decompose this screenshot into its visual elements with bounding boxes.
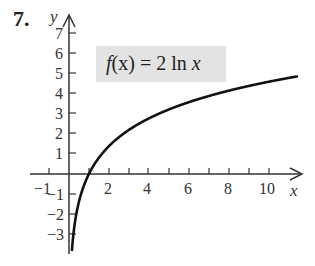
x-ticks: [49, 168, 269, 174]
y-axis: [63, 15, 75, 254]
x-tick-label: 4: [143, 180, 151, 197]
y-axis-label: y: [48, 7, 58, 26]
y-tick-label: 2: [55, 125, 63, 142]
y-tick-label: −1: [47, 186, 64, 203]
x-tick-label: 8: [224, 180, 232, 197]
x-tick-label: 2: [104, 180, 112, 197]
chart-plot: −1 2 4 6 8 10 x y 7 6 5 4 3 2 1 −1 −2 −3: [0, 0, 315, 266]
y-tick-label: 1: [55, 145, 63, 162]
y-ticks: [69, 33, 76, 234]
y-tick-label: 7: [55, 25, 63, 42]
y-tick-label: 5: [55, 65, 63, 82]
y-tick-label: −3: [47, 226, 64, 243]
y-tick-label: 6: [55, 45, 63, 62]
y-tick-label: 4: [55, 85, 63, 102]
y-tick-label: 3: [55, 105, 63, 122]
function-curve: [72, 76, 297, 249]
x-axis-label: x: [289, 181, 298, 200]
x-tick-label: 6: [184, 180, 192, 197]
x-tick-label: 10: [259, 180, 275, 197]
function-label: f(x) = 2 ln x: [106, 52, 201, 75]
y-tick-label: −2: [47, 206, 64, 223]
x-axis: [30, 168, 302, 180]
